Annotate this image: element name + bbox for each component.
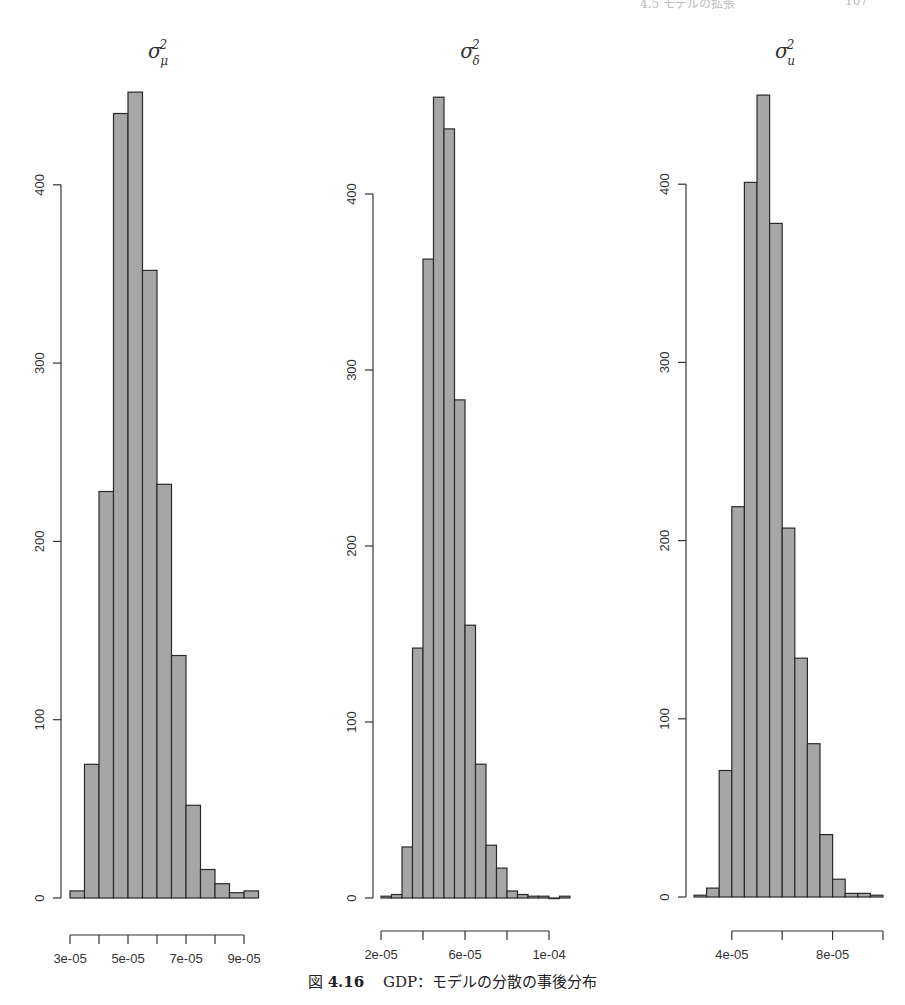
panel-title: σ2δ (460, 38, 480, 68)
histogram-bar (497, 868, 508, 898)
histogram-bar (782, 528, 795, 897)
histogram-bar (402, 847, 413, 898)
y-tick-label: 0 (32, 894, 47, 901)
y-tick-label: 300 (344, 359, 359, 381)
histogram-bar (707, 888, 720, 897)
histogram-bar (539, 896, 550, 898)
x-tick-label: 5e-05 (111, 951, 144, 966)
histogram-bar (694, 895, 707, 897)
x-axis: 4e-058e-05 (715, 931, 883, 962)
histogram-figure: σ2μ01002003004003e-055e-057e-059e-05 σ2δ… (0, 0, 905, 1005)
histogram-bar (99, 492, 114, 899)
histogram-bars (381, 97, 570, 898)
histogram-bar (795, 658, 808, 897)
histogram-bar (455, 400, 466, 898)
y-tick-label: 200 (657, 530, 672, 552)
histogram-bar (549, 898, 560, 899)
histogram-bars (694, 95, 883, 897)
histogram-bar (465, 625, 476, 898)
x-tick-label: 4e-05 (715, 947, 748, 962)
x-axis: 3e-055e-057e-059e-05 (53, 935, 260, 966)
histogram-bar (434, 97, 445, 898)
panel-title: σ2u (775, 38, 795, 68)
histogram-bar (244, 891, 259, 898)
histogram-panel-sigma-u: σ2u01002003004004e-058e-05 (657, 38, 883, 962)
y-tick-label: 400 (32, 174, 47, 196)
histogram-bar (230, 893, 245, 898)
histogram-bar (157, 484, 172, 898)
histogram-bar (143, 270, 158, 898)
panel-title: σ2μ (148, 38, 168, 68)
y-axis: 0100200300400 (32, 174, 61, 902)
histogram-bar (186, 805, 201, 898)
histogram-bar (507, 891, 518, 898)
y-tick-label: 100 (344, 711, 359, 733)
y-tick-label: 0 (657, 893, 672, 900)
histogram-bar (172, 656, 187, 899)
histogram-bar (820, 835, 833, 897)
histogram-bar (486, 845, 497, 898)
x-tick-label: 8e-05 (816, 947, 849, 962)
histogram-panel-sigma-mu: σ2μ01002003004003e-055e-057e-059e-05 (32, 38, 260, 966)
histogram-bar (858, 893, 871, 897)
histogram-bar (392, 895, 403, 899)
histogram-bar (215, 884, 230, 898)
histogram-bar (70, 891, 85, 898)
histogram-bar (770, 223, 783, 897)
y-tick-label: 200 (344, 535, 359, 557)
histogram-bar (560, 896, 571, 898)
x-tick-label: 2e-05 (364, 947, 397, 962)
y-tick-label: 400 (657, 173, 672, 195)
y-tick-label: 200 (32, 531, 47, 553)
histogram-bars (70, 92, 259, 898)
histogram-bar (85, 764, 100, 898)
histogram-panel-sigma-delta: σ2δ01002003004002e-056e-051e-04 (344, 38, 570, 962)
histogram-bar (719, 771, 732, 898)
x-tick-label: 9e-05 (227, 951, 260, 966)
histogram-bar (413, 648, 424, 898)
x-tick-label: 1e-04 (532, 947, 565, 962)
x-axis: 2e-056e-051e-04 (364, 931, 565, 962)
figure-caption: 図 4.16 GDP：モデルの分散の事後分布 (0, 970, 905, 991)
y-tick-label: 100 (32, 709, 47, 731)
histogram-bar (128, 92, 143, 898)
y-tick-label: 300 (32, 352, 47, 374)
histogram-bar (845, 893, 858, 897)
y-tick-label: 400 (344, 183, 359, 205)
histogram-bar (833, 879, 846, 897)
y-tick-label: 100 (657, 708, 672, 730)
histogram-bar (381, 896, 392, 898)
caption-text: GDP：モデルの分散の事後分布 (383, 973, 597, 991)
histogram-bar (732, 507, 745, 897)
histogram-bar (807, 744, 820, 897)
x-tick-label: 6e-05 (448, 947, 481, 962)
histogram-bar (528, 896, 539, 898)
y-tick-label: 300 (657, 352, 672, 374)
histogram-bar (518, 895, 529, 899)
x-tick-label: 3e-05 (53, 951, 86, 966)
y-tick-label: 0 (344, 894, 359, 901)
histogram-bar (870, 895, 883, 897)
histogram-bar (744, 182, 757, 897)
histogram-bar (476, 764, 487, 898)
y-axis: 0100200300400 (344, 183, 373, 901)
x-tick-label: 7e-05 (169, 951, 202, 966)
histogram-bar (757, 95, 770, 897)
caption-label: 図 (308, 973, 323, 991)
histogram-bar (423, 259, 434, 898)
histogram-bar (114, 114, 129, 899)
histogram-bar (201, 870, 216, 899)
histogram-bar (444, 129, 455, 898)
caption-number: 4.16 (328, 973, 365, 991)
y-axis: 0100200300400 (657, 173, 686, 900)
